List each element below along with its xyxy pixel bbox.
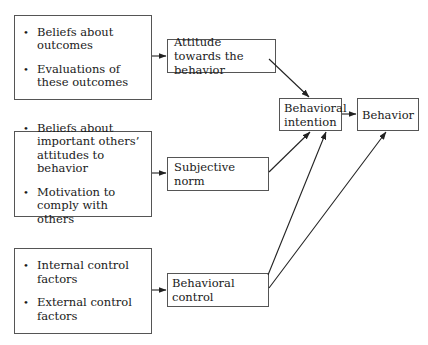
- factor-item: • Motivation to comply with others: [23, 186, 147, 227]
- arrow-norm-to-intention: [269, 132, 310, 172]
- attitude-node: Attitude towards the behavior: [167, 39, 276, 73]
- behavior-node: Behavior: [357, 98, 419, 131]
- factor-item: • Beliefs about outcomes: [23, 26, 147, 53]
- factor-item: • External control factors: [23, 296, 147, 323]
- factor-label: Evaluations of these outcomes: [37, 63, 147, 90]
- bullet-icon: •: [23, 259, 37, 286]
- attitude-factors-box: • Beliefs about outcomes • Evaluations o…: [14, 15, 152, 100]
- factor-label: External control factors: [37, 296, 147, 323]
- factor-item: • Evaluations of these outcomes: [23, 63, 147, 90]
- factor-item: • Beliefs about important others’ attitu…: [23, 122, 147, 176]
- bullet-icon: •: [23, 63, 37, 90]
- subjective-norm-node: Subjective norm: [167, 157, 269, 191]
- arrow-control-to-behavior: [269, 132, 386, 288]
- behavioral-control-node: Behavioral control: [167, 273, 269, 307]
- bullet-icon: •: [23, 122, 37, 176]
- factor-label: Beliefs about outcomes: [37, 26, 147, 53]
- bullet-icon: •: [23, 186, 37, 227]
- factor-item: • Internal control factors: [23, 259, 147, 286]
- factor-label: Beliefs about important others’ attitude…: [37, 122, 147, 176]
- arrow-control-to-intention: [268, 132, 326, 275]
- factor-label: Internal control factors: [37, 259, 147, 286]
- bullet-icon: •: [23, 296, 37, 323]
- bullet-icon: •: [23, 26, 37, 53]
- norm-factors-box: • Beliefs about important others’ attitu…: [14, 131, 152, 217]
- control-factors-box: • Internal control factors • External co…: [14, 248, 152, 334]
- factor-label: Motivation to comply with others: [37, 186, 147, 227]
- behavioral-intention-node: Behavioral intention: [279, 98, 342, 131]
